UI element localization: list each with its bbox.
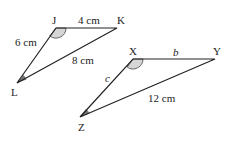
side-label-xy: b	[173, 46, 179, 58]
triangle-xyz-outline	[80, 59, 215, 117]
vertex-label-x: X	[129, 45, 137, 57]
side-label-jl: 6 cm	[15, 36, 37, 48]
similar-triangles-diagram: J K L 4 cm 6 cm 8 cm X Y Z b c 12 cm	[0, 0, 234, 141]
vertex-label-y: Y	[213, 45, 221, 57]
vertex-label-z: Z	[78, 121, 85, 133]
side-label-xz: c	[105, 72, 110, 84]
angle-x-marker	[127, 59, 143, 69]
vertex-label-j: J	[52, 14, 57, 26]
side-label-kl: 8 cm	[72, 54, 94, 66]
vertex-label-l: L	[11, 86, 18, 98]
side-label-yz: 12 cm	[148, 92, 176, 104]
side-label-jk: 4 cm	[78, 14, 100, 26]
triangle-xyz: X Y Z b c 12 cm	[78, 45, 221, 133]
vertex-label-k: K	[117, 14, 125, 26]
triangle-jkl: J K L 4 cm 6 cm 8 cm	[11, 14, 125, 98]
